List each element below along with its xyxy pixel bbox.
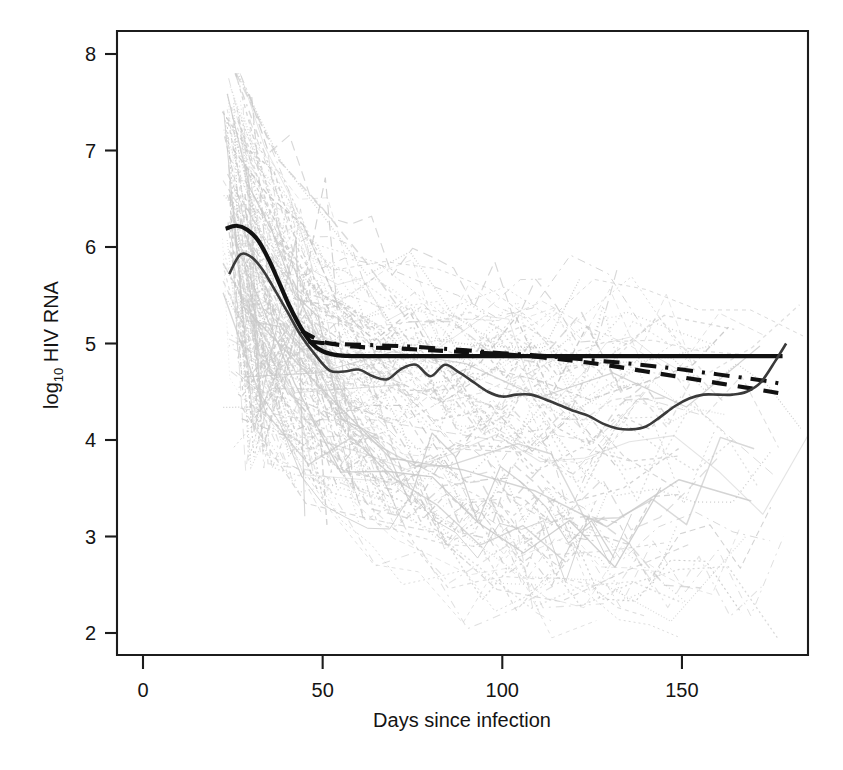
y-tick-label: 5	[85, 333, 96, 355]
x-axis-title: Days since infection	[373, 709, 551, 731]
y-tick-label: 8	[85, 43, 96, 65]
x-tick-label: 100	[486, 679, 519, 701]
y-tick-label: 2	[85, 622, 96, 644]
hiv-rna-viral-load-chart: 2345678 050100150 Days since infection l…	[0, 0, 843, 770]
x-tick-label: 50	[312, 679, 334, 701]
y-tick-label: 3	[85, 526, 96, 548]
y-tick-label: 4	[85, 429, 96, 451]
y-tick-label: 7	[85, 140, 96, 162]
y-axis-title-rest: HIV RNA	[40, 280, 62, 367]
y-axis-title-base: log	[40, 382, 62, 409]
x-tick-label: 0	[137, 679, 148, 701]
chart-canvas: 2345678 050100150 Days since infection l…	[0, 0, 843, 770]
x-tick-label: 150	[665, 679, 698, 701]
y-tick-label: 6	[85, 236, 96, 258]
y-axis-title-subscript: 10	[51, 368, 66, 382]
